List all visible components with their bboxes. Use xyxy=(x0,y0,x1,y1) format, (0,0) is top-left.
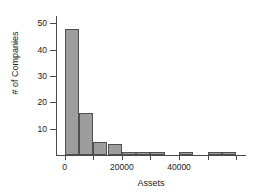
x-tick-label: 20000 xyxy=(102,163,142,172)
x-tick-mark xyxy=(179,155,180,160)
histogram-bar xyxy=(93,142,107,155)
histogram-bar xyxy=(179,152,193,155)
histogram-bar xyxy=(108,144,122,155)
histogram-bar xyxy=(208,152,222,155)
histogram-bar xyxy=(150,152,164,155)
x-tick-mark xyxy=(122,155,123,160)
histogram-bar xyxy=(79,113,93,155)
histogram-bar xyxy=(136,152,150,155)
x-minor-tick-mark xyxy=(93,155,94,160)
y-tick-label: 20 xyxy=(23,98,47,107)
x-minor-tick-mark xyxy=(236,155,237,160)
histogram-bar xyxy=(65,29,79,155)
y-axis-title: # of Companies xyxy=(10,8,20,118)
y-tick-label: 30 xyxy=(23,72,47,81)
histogram-bar xyxy=(222,152,236,155)
y-tick-label: 50 xyxy=(23,19,47,28)
bars-container xyxy=(56,18,242,155)
y-tick-label: 10 xyxy=(23,125,47,134)
y-tick-label: 40 xyxy=(23,46,47,55)
x-tick-label: 0 xyxy=(45,163,85,172)
histogram-bar xyxy=(122,152,136,155)
x-axis-title: Assets xyxy=(56,178,246,188)
x-minor-tick-mark xyxy=(208,155,209,160)
x-tick-mark xyxy=(65,155,66,160)
histogram-figure: 1020304050 02000040000 Assets # of Compa… xyxy=(0,0,260,195)
x-tick-label: 40000 xyxy=(159,163,199,172)
x-minor-tick-mark xyxy=(150,155,151,160)
